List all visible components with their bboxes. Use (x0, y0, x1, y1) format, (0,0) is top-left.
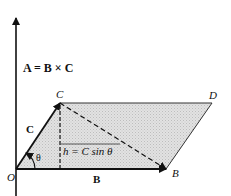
vector-b-label: B (93, 174, 100, 185)
diagram-canvas (0, 0, 231, 196)
point-c-label: C (56, 89, 63, 100)
point-d-label: D (209, 90, 217, 101)
vector-c-label: C (26, 124, 34, 135)
equation-label: A = B × C (23, 62, 73, 74)
theta-label: θ (36, 153, 41, 163)
height-formula-label: h = C sin θ (63, 146, 113, 157)
point-b-label: B (172, 168, 179, 179)
point-o-label: O (7, 172, 15, 183)
parallelogram-area (16, 103, 212, 169)
